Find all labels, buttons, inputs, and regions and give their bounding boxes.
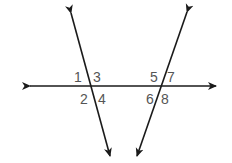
angle-label-6: 6 xyxy=(146,91,154,107)
angle-label-8: 8 xyxy=(161,91,169,107)
diagram-canvas: 1 3 2 4 5 7 6 8 xyxy=(0,0,232,163)
angle-label-7: 7 xyxy=(167,69,175,85)
angle-label-5: 5 xyxy=(150,69,158,85)
right-transversal xyxy=(137,12,187,156)
angle-diagram: 1 3 2 4 5 7 6 8 xyxy=(0,0,232,163)
angle-label-1: 1 xyxy=(74,69,82,85)
angle-label-4: 4 xyxy=(98,91,106,107)
angle-label-2: 2 xyxy=(80,91,88,107)
angle-label-3: 3 xyxy=(93,69,101,85)
